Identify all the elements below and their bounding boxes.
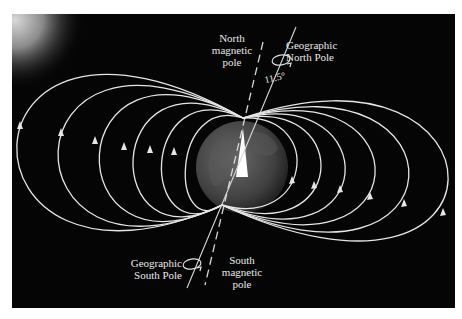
geographic-north-pole-label: Geographic North Pole xyxy=(286,39,366,63)
north-magnetic-pole-label: North magnetic pole xyxy=(208,32,256,68)
south-magnetic-pole-label: South magnetic pole xyxy=(218,254,266,290)
south-rotation-arrow-icon xyxy=(182,258,201,271)
field-arrows-left xyxy=(17,121,177,155)
geographic-south-pole-label: Geographic South Pole xyxy=(112,257,182,281)
magnetic-field-diagram: North magnetic pole Geographic North Pol… xyxy=(12,14,455,308)
